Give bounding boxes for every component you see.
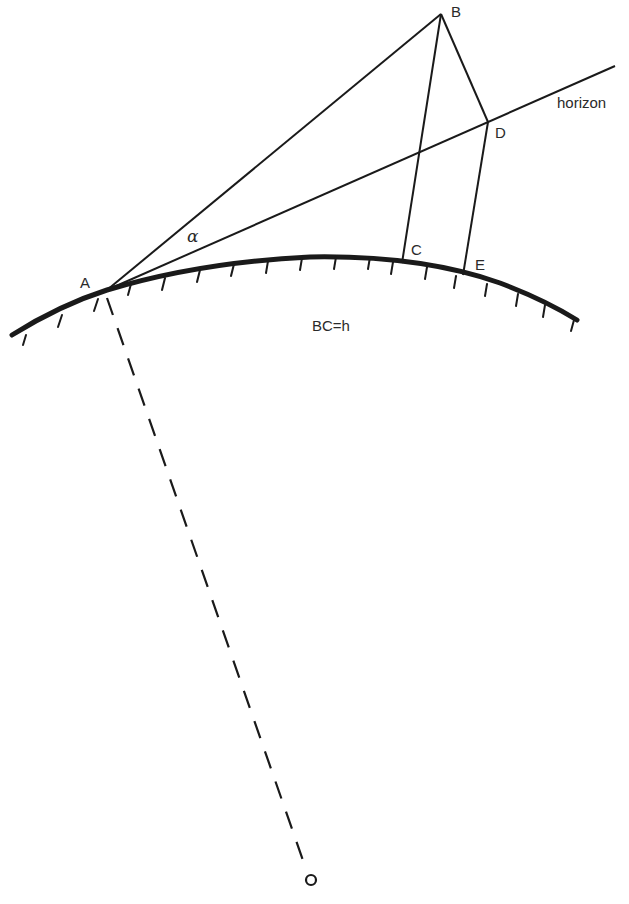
label-D: D — [495, 124, 506, 141]
label-E: E — [475, 256, 485, 273]
label-horizon: horizon — [557, 94, 606, 111]
line-BC — [402, 14, 441, 263]
line-DE — [463, 122, 488, 275]
line-AO-radius — [107, 298, 307, 872]
label-height-equation: BC=h — [312, 317, 350, 334]
label-A: A — [80, 274, 90, 291]
label-alpha-angle: α — [187, 226, 199, 246]
line-AB — [107, 14, 441, 290]
earth-curvature-diagram: A B C D E horizon α BC=h — [0, 0, 629, 904]
earth-center-point — [306, 875, 316, 885]
surface-hatch-marks — [23, 257, 574, 345]
label-B: B — [451, 3, 461, 20]
line-BD — [441, 14, 488, 122]
label-C: C — [411, 241, 422, 258]
earth-surface-arc — [12, 257, 577, 335]
